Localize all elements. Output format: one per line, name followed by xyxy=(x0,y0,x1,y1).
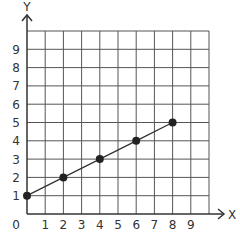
x-axis-label: X xyxy=(228,208,236,222)
y-tick-label: 1 xyxy=(12,189,20,203)
y-tick-label: 9 xyxy=(12,43,20,57)
x-tick-label: 6 xyxy=(132,218,140,232)
line-chart: 0123456789123456789 X Y xyxy=(0,0,240,233)
axes xyxy=(22,15,224,219)
x-tick-label: 7 xyxy=(151,218,159,232)
y-tick-label: 6 xyxy=(12,98,20,112)
y-tick-label: 7 xyxy=(12,79,20,93)
y-axis-label: Y xyxy=(22,0,31,14)
x-tick-label: 4 xyxy=(96,218,104,232)
data-point-marker xyxy=(132,137,140,145)
data-point-marker xyxy=(59,173,67,181)
y-tick-label: 8 xyxy=(12,61,20,75)
grid xyxy=(27,31,209,214)
data-point-marker xyxy=(23,192,31,200)
x-tick-label: 2 xyxy=(60,218,68,232)
y-tick-label: 2 xyxy=(12,171,20,185)
x-tick-label: 9 xyxy=(187,218,195,232)
y-tick-label: 3 xyxy=(12,153,20,167)
data-point-marker xyxy=(169,119,177,127)
y-tick-label: 4 xyxy=(12,134,20,148)
x-tick-label: 8 xyxy=(169,218,177,232)
x-tick-label: 0 xyxy=(12,218,20,232)
x-tick-label: 5 xyxy=(114,218,122,232)
tick-labels: 0123456789123456789 xyxy=(12,43,194,232)
data-point-marker xyxy=(96,155,104,163)
x-tick-label: 1 xyxy=(41,218,49,232)
x-tick-label: 3 xyxy=(78,218,86,232)
y-tick-label: 5 xyxy=(12,116,20,130)
